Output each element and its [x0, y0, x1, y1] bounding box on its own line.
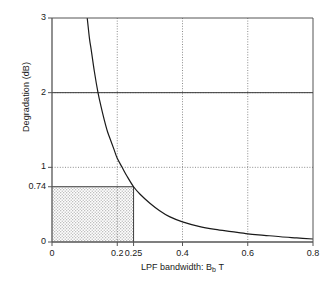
shaded-operating-region	[52, 187, 134, 242]
y-axis-title: Degradation (dB)	[21, 27, 31, 167]
degradation-chart-figure: Degradation (dB) LPF bandwidth: Bb T 00.…	[0, 0, 333, 287]
x-tick-label: 0	[36, 248, 68, 258]
x-tick-label: 0.25	[118, 248, 150, 258]
y-tick-label: 0	[10, 236, 46, 246]
x-axis-title: LPF bandwidth: Bb T	[52, 262, 313, 273]
chart-plot-svg	[0, 0, 333, 287]
x-axis-title-prefix: LPF bandwidth: B	[141, 262, 212, 272]
y-tick-label: 2	[10, 87, 46, 97]
y-tick-label: 3	[10, 12, 46, 22]
x-tick-label: 0.6	[232, 248, 264, 258]
x-tick-label: 0.4	[167, 248, 199, 258]
x-tick-label: 0.8	[297, 248, 329, 258]
y-tick-label: 0.74	[10, 181, 46, 191]
x-axis-title-suffix-text: T	[218, 262, 224, 272]
y-tick-label: 1	[10, 161, 46, 171]
vertical-gridlines	[117, 18, 248, 242]
